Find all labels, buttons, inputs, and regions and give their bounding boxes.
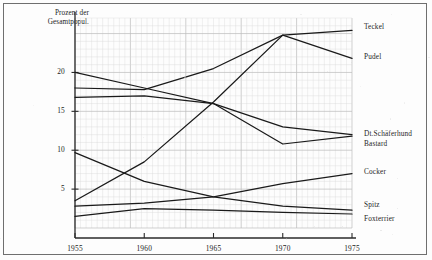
series-label-spitz: Spitz <box>364 200 380 209</box>
series-label-pudel: Pudel <box>364 52 381 61</box>
scan-speckle <box>286 238 287 239</box>
scan-speckle <box>360 86 361 87</box>
chart-screenshot: Prozent der Gesamtpopul. 5101520 1955196… <box>0 0 432 260</box>
scan-speckle <box>184 76 186 78</box>
scan-speckle <box>327 71 328 72</box>
x-tick-1960: 1960 <box>127 244 161 253</box>
y-tick-20: 20 <box>43 67 65 76</box>
x-tick-1975: 1975 <box>335 244 369 253</box>
series-label-teckel: Teckel <box>364 22 384 31</box>
scan-speckle <box>197 153 198 154</box>
x-tick-1955: 1955 <box>58 244 92 253</box>
y-tick-5: 5 <box>43 184 65 193</box>
scan-speckle <box>0 238 1 239</box>
y-tick-10: 10 <box>43 145 65 154</box>
series-label-bastard: Bastard <box>364 139 387 148</box>
x-tick-1965: 1965 <box>197 244 231 253</box>
series-label-cocker: Cocker <box>364 167 386 176</box>
x-tick-1970: 1970 <box>266 244 300 253</box>
series-label-dt-sch-ferhund: Dt.Schäferhund <box>364 129 412 138</box>
y-tick-15: 15 <box>43 106 65 115</box>
scan-speckle <box>397 208 398 209</box>
chart-area: Prozent der Gesamtpopul. 5101520 1955196… <box>0 0 432 260</box>
series-label-foxterrier: Foxterrier <box>364 214 395 223</box>
